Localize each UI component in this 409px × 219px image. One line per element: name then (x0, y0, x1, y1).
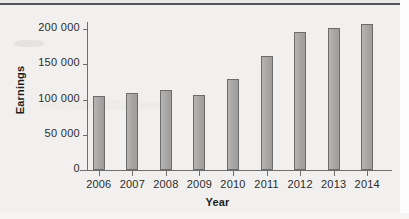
y-tick-label: 50 000 (45, 127, 80, 139)
x-tick-label: 2008 (149, 178, 183, 190)
bar (93, 96, 105, 170)
x-tick-mark (367, 171, 368, 176)
x-tick-mark (166, 171, 167, 176)
bar (126, 93, 138, 170)
x-axis-line (80, 170, 392, 171)
x-tick-label: 2011 (250, 178, 284, 190)
x-tick-label: 2010 (216, 178, 250, 190)
y-tick-label: 100 000 (38, 92, 80, 104)
bar (361, 24, 373, 170)
x-tick-label: 2013 (317, 178, 351, 190)
x-tick-label: 2014 (350, 178, 384, 190)
bar (294, 32, 306, 170)
x-tick-mark (267, 171, 268, 176)
plot-area (88, 22, 390, 170)
bar (227, 79, 239, 170)
y-axis-title: Earnings (14, 66, 26, 115)
x-tick-label: 2012 (283, 178, 317, 190)
bar (261, 56, 273, 170)
y-tick-label: 150 000 (38, 56, 80, 68)
bar (160, 90, 172, 170)
x-tick-label: 2006 (82, 178, 116, 190)
x-tick-mark (99, 171, 100, 176)
chart-page: Earnings Year 050 000100 000150 000200 0… (0, 0, 409, 219)
x-tick-mark (300, 171, 301, 176)
bar (193, 95, 205, 170)
x-tick-mark (132, 171, 133, 176)
y-tick-label: 0 (74, 162, 80, 174)
x-tick-label: 2007 (115, 178, 149, 190)
bar (328, 28, 340, 170)
x-tick-label: 2009 (182, 178, 216, 190)
x-tick-mark (233, 171, 234, 176)
y-tick-mark (83, 170, 88, 171)
y-tick-label: 200 000 (38, 21, 80, 33)
x-tick-mark (199, 171, 200, 176)
bar-chart: Earnings Year 050 000100 000150 000200 0… (0, 0, 409, 219)
x-axis-title: Year (0, 196, 409, 208)
x-tick-mark (334, 171, 335, 176)
